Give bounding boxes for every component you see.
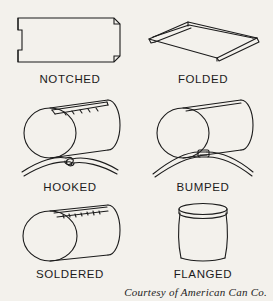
panel-label-folded: FOLDED bbox=[178, 74, 228, 86]
notched-drawing bbox=[10, 12, 130, 68]
can-manufacturing-figure: NOTCHED FOLDED bbox=[0, 0, 273, 301]
bumped-drawing bbox=[141, 88, 265, 180]
folded-drawing bbox=[143, 12, 263, 68]
panel-bumped: BUMPED bbox=[137, 88, 269, 194]
panel-label-hooked: HOOKED bbox=[43, 182, 96, 194]
panel-folded: FOLDED bbox=[137, 12, 269, 86]
flanged-drawing bbox=[141, 200, 265, 266]
hooked-drawing bbox=[8, 88, 132, 180]
panel-label-flanged: FLANGED bbox=[174, 269, 233, 281]
panel-notched: NOTCHED bbox=[4, 12, 136, 86]
soldered-drawing bbox=[8, 200, 132, 266]
panel-label-bumped: BUMPED bbox=[177, 182, 230, 194]
panel-label-notched: NOTCHED bbox=[39, 74, 100, 86]
panel-hooked: HOOKED bbox=[4, 88, 136, 194]
panel-flanged: FLANGED bbox=[137, 200, 269, 281]
panel-label-soldered: SOLDERED bbox=[36, 269, 104, 281]
figure-credit: Courtesy of American Can Co. bbox=[124, 286, 267, 298]
panel-soldered: SOLDERED bbox=[4, 200, 136, 281]
